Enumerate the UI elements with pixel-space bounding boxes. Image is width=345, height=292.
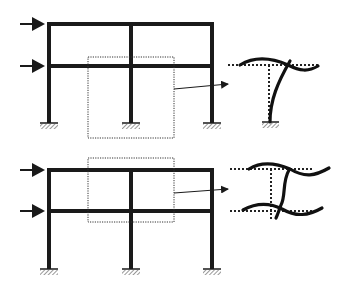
lateral-load-arrow-icon (20, 17, 45, 31)
fixed-support-icon (40, 269, 58, 275)
fixed-support-icon (203, 269, 221, 275)
bottom-deformation-detail (230, 164, 329, 219)
detail-pointer-arrow-icon (174, 189, 228, 193)
detail-pointer-arrow-icon (174, 84, 228, 89)
fixed-support-icon (40, 123, 58, 129)
fixed-support-icon (122, 269, 140, 275)
bottom-frame (20, 158, 329, 275)
top-frame (20, 17, 318, 138)
lateral-load-arrow-icon (20, 59, 45, 73)
top-deformation-detail (228, 59, 318, 128)
deformed-lower-beam-curve (243, 205, 322, 215)
deformed-column-curve (270, 61, 290, 122)
lateral-load-arrow-icon (20, 204, 45, 218)
deformed-beam-curve (240, 59, 318, 70)
fixed-support-icon (122, 123, 140, 129)
fixed-support-icon (203, 123, 221, 129)
lateral-load-arrow-icon (20, 163, 45, 177)
diagram-canvas (0, 0, 345, 292)
